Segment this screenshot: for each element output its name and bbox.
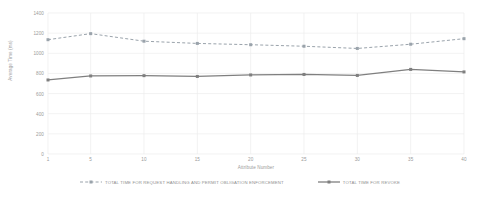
data-point-marker xyxy=(463,37,466,40)
y-tick-label: 800 xyxy=(18,71,44,76)
legend-label: TOTAL TIME FOR REQUEST HANDLING AND PERM… xyxy=(105,180,284,185)
x-tick-label: 1 xyxy=(33,157,63,162)
y-tick-label: 200 xyxy=(18,131,44,136)
data-point-marker xyxy=(89,74,92,77)
data-point-marker xyxy=(303,73,306,76)
series-line-1 xyxy=(48,69,464,80)
chart-legend: TOTAL TIME FOR REQUEST HANDLING AND PERM… xyxy=(0,179,480,185)
data-point-marker xyxy=(409,43,412,46)
data-point-marker xyxy=(143,40,146,43)
data-point-marker xyxy=(47,78,50,81)
legend-swatch-dashed-icon xyxy=(80,179,102,185)
x-tick-label: 10 xyxy=(129,157,159,162)
legend-swatch-solid-icon xyxy=(318,179,340,185)
data-point-marker xyxy=(196,75,199,78)
x-tick-label: 40 xyxy=(449,157,479,162)
y-axis-title: Average Time (ms) xyxy=(8,30,13,92)
data-point-marker xyxy=(89,32,92,35)
x-tick-label: 25 xyxy=(289,157,319,162)
data-point-marker xyxy=(249,73,252,76)
legend-entry-0[interactable]: TOTAL TIME FOR REQUEST HANDLING AND PERM… xyxy=(80,179,284,185)
y-tick-label: 1400 xyxy=(18,11,44,16)
data-point-marker xyxy=(409,68,412,71)
plot-area xyxy=(48,13,464,154)
y-tick-label: 1000 xyxy=(18,51,44,56)
x-tick-label: 20 xyxy=(236,157,266,162)
y-tick-label: 600 xyxy=(18,91,44,96)
y-axis-tick-labels: 0200400600800100012001400 xyxy=(14,13,44,154)
chart-container: 0200400600800100012001400 Average Time (… xyxy=(0,0,480,202)
y-tick-label: 0 xyxy=(18,152,44,157)
y-tick-label: 1200 xyxy=(18,31,44,36)
x-tick-label: 15 xyxy=(182,157,212,162)
data-point-marker xyxy=(47,38,50,41)
x-tick-label: 5 xyxy=(76,157,106,162)
plot-svg xyxy=(48,13,464,154)
y-tick-label: 400 xyxy=(18,111,44,116)
series-line-0 xyxy=(48,34,464,49)
data-point-marker xyxy=(249,43,252,46)
data-point-marker xyxy=(303,45,306,48)
x-axis-title: Attribute Number xyxy=(48,165,464,170)
data-point-marker xyxy=(196,42,199,45)
legend-entry-1[interactable]: TOTAL TIME FOR REVOKE xyxy=(318,179,400,185)
legend-label: TOTAL TIME FOR REVOKE xyxy=(343,180,400,185)
x-tick-label: 30 xyxy=(342,157,372,162)
data-point-marker xyxy=(356,47,359,50)
data-point-marker xyxy=(463,70,466,73)
data-point-marker xyxy=(356,74,359,77)
x-tick-label: 35 xyxy=(396,157,426,162)
data-point-marker xyxy=(143,74,146,77)
